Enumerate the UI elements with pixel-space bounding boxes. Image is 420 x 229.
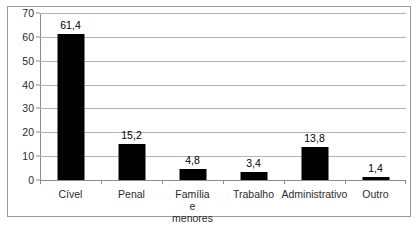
bar-value-label: 61,4: [60, 19, 80, 31]
y-axis-tick-label: 20: [22, 126, 34, 138]
bar-value-label: 1,4: [368, 162, 383, 174]
y-axis-tick-label: 70: [22, 7, 34, 19]
y-axis-tick-label: 40: [22, 79, 34, 91]
plot-area: 01020304050607061,4Cível15,2Penal4,8Famí…: [40, 13, 406, 180]
x-tick-mark: [162, 180, 163, 184]
bar-value-label: 13,8: [304, 132, 324, 144]
x-axis-category-label: Trabalho: [233, 188, 274, 200]
x-axis-category-label: Outro: [362, 188, 388, 200]
y-axis-tick-label: 0: [28, 174, 34, 186]
bar-value-label: 4,8: [185, 154, 200, 166]
y-axis-tick-label: 10: [22, 150, 34, 162]
bar-group: 3,4Trabalho: [223, 13, 284, 180]
y-axis-tick-label: 50: [22, 55, 34, 67]
x-axis-category-label: Cível: [59, 188, 83, 200]
y-axis-tick-label: 60: [22, 31, 34, 43]
bar-value-label: 15,2: [121, 129, 141, 141]
bar[interactable]: [57, 34, 84, 180]
chart-frame: 01020304050607061,4Cível15,2Penal4,8Famí…: [7, 6, 411, 217]
bar[interactable]: [362, 177, 389, 180]
x-tick-mark: [101, 180, 102, 184]
bar[interactable]: [240, 172, 267, 180]
bar[interactable]: [179, 169, 206, 180]
bar[interactable]: [301, 147, 328, 180]
x-tick-mark: [345, 180, 346, 184]
x-tick-mark: [284, 180, 285, 184]
bar[interactable]: [118, 144, 145, 180]
x-axis-category-label: Administrativo: [282, 188, 348, 200]
bar-value-label: 3,4: [246, 157, 261, 169]
y-axis-tick-label: 30: [22, 102, 34, 114]
x-axis-category-label: Família e menores: [172, 188, 213, 224]
bar-group: 15,2Penal: [101, 13, 162, 180]
x-axis-category-label: Penal: [118, 188, 145, 200]
x-tick-mark: [223, 180, 224, 184]
x-tick-mark: [405, 180, 406, 184]
bar-group: 13,8Administrativo: [284, 13, 345, 180]
x-tick-mark: [40, 180, 41, 184]
bar-group: 1,4Outro: [345, 13, 406, 180]
bar-group: 4,8Família e menores: [162, 13, 223, 180]
bar-group: 61,4Cível: [40, 13, 101, 180]
